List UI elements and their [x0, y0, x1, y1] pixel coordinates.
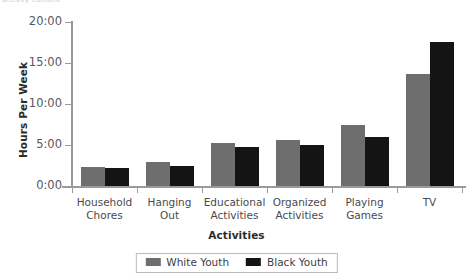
bar-white-youth [81, 167, 105, 186]
y-axis-tick-label: 5:00 [2, 139, 62, 151]
x-axis-tick [72, 187, 73, 193]
bar-group [202, 22, 267, 186]
bar-black-youth [105, 168, 129, 186]
plot-area [72, 22, 462, 186]
bar-group [332, 22, 397, 186]
bar-black-youth [430, 42, 454, 186]
clipped-caption-fragment: activity content [2, 0, 60, 3]
bar-white-youth [146, 162, 170, 186]
legend-item[interactable]: Black Youth [246, 257, 328, 268]
x-axis-category-label: Educational Activities [202, 196, 267, 221]
bar-group [397, 22, 462, 186]
x-axis-line [62, 186, 466, 188]
bar-group [267, 22, 332, 186]
bar-white-youth [406, 74, 430, 186]
legend-item[interactable]: White Youth [145, 257, 229, 268]
bar-black-youth [235, 147, 259, 186]
legend-label: White Youth [166, 257, 229, 268]
bar-black-youth [365, 137, 389, 186]
bar-group [72, 22, 137, 186]
y-axis-tick [65, 145, 71, 146]
x-axis-category-label: Playing Games [332, 196, 397, 221]
y-axis-tick-label: 0:00 [2, 180, 62, 192]
x-axis-tick [332, 187, 333, 193]
bar-white-youth [341, 125, 365, 186]
x-axis-title: Activities [0, 229, 473, 241]
bar-black-youth [300, 145, 324, 186]
bar-white-youth [211, 143, 235, 186]
x-axis-category-label: Organized Activities [267, 196, 332, 221]
y-axis-tick [65, 22, 71, 23]
y-axis-tick-label: 15:00 [2, 57, 62, 69]
bar-chart: activity content Hours Per Week 0:005:00… [0, 0, 473, 280]
legend-label: Black Youth [267, 257, 328, 268]
x-axis-tick [202, 187, 203, 193]
bar-group [137, 22, 202, 186]
legend-swatch-icon [246, 258, 261, 266]
y-axis-tick [65, 63, 71, 64]
x-axis-category-label: Household Chores [72, 196, 137, 221]
chart-legend: White YouthBlack Youth [135, 253, 337, 273]
y-axis-tick-label: 20:00 [2, 16, 62, 28]
x-axis-tick [137, 187, 138, 193]
y-axis-tick-label: 10:00 [2, 98, 62, 110]
bar-black-youth [170, 166, 194, 186]
x-axis-category-label: Hanging Out [137, 196, 202, 221]
y-axis-tick [65, 104, 71, 105]
x-axis-category-label: TV [397, 196, 462, 209]
x-axis-tick [267, 187, 268, 193]
legend-swatch-icon [145, 258, 160, 266]
y-axis-tick [65, 186, 71, 187]
x-axis-tick [462, 187, 463, 193]
x-axis-tick [397, 187, 398, 193]
bar-white-youth [276, 140, 300, 186]
